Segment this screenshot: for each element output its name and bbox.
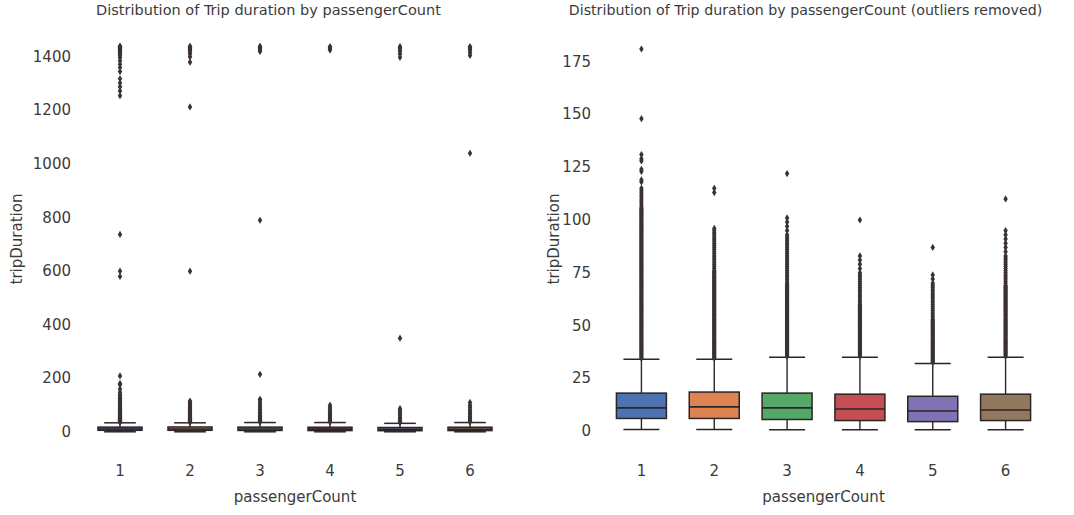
outlier-point [858,252,862,259]
outlier-point [398,335,402,342]
boxplot-box-5 [908,244,958,430]
boxplot-box-1 [616,45,666,429]
y-tick-label: 25 [572,369,591,387]
outlier-point [118,372,122,379]
boxplot-panel-right: Distribution of Trip duration by passeng… [537,0,1074,515]
chart-title-right: Distribution of Trip duration by passeng… [537,2,1074,18]
boxplot-box-4 [835,216,885,429]
outlier-point [1003,195,1007,202]
outlier-point [118,268,122,275]
y-axis-label: tripDuration [545,194,563,285]
y-tick-label: 800 [42,209,71,227]
x-tick-label: 1 [115,462,125,480]
y-axis-label: tripDuration [8,194,26,285]
x-axis-label: passengerCount [234,488,357,506]
x-tick-label: 2 [709,462,719,480]
x-tick-label: 2 [185,462,195,480]
y-tick-label: 1400 [33,48,71,66]
outlier-point [118,75,122,82]
outlier-point [785,170,789,177]
outlier-point [931,244,935,251]
x-tick-label: 6 [1001,462,1011,480]
boxplot-svg-right: 0255075100125150175tripDuration123456pas… [537,0,1074,515]
boxplot-box-3 [238,43,282,432]
x-tick-label: 4 [325,462,335,480]
outlier-point [188,103,192,110]
boxplot-box-6 [981,195,1031,430]
x-tick-label: 3 [782,462,792,480]
y-tick-label: 200 [42,369,71,387]
boxplot-box-6 [448,43,492,432]
chart-title-left: Distribution of Trip duration by passeng… [0,2,537,18]
y-tick-label: 1000 [33,155,71,173]
outlier-point [639,151,643,158]
y-tick-label: 400 [42,316,71,334]
x-tick-label: 4 [855,462,865,480]
outlier-point [785,214,789,221]
y-tick-label: 1200 [33,101,71,119]
y-tick-label: 125 [562,158,591,176]
figure-root: Distribution of Trip duration by passeng… [0,0,1074,515]
outlier-point [118,380,122,387]
boxplot-box-1 [98,43,142,432]
y-tick-label: 100 [562,211,591,229]
boxplot-svg-left: 0200400600800100012001400tripDuration123… [0,0,537,515]
x-tick-label: 1 [637,462,647,480]
boxplot-box-3 [762,170,812,430]
boxplot-box-2 [168,43,212,432]
outlier-point [639,45,643,52]
outlier-point [931,271,935,278]
x-axis-label: passengerCount [762,488,885,506]
x-tick-label: 5 [395,462,405,480]
y-tick-label: 600 [42,262,71,280]
x-tick-label: 3 [255,462,265,480]
y-tick-label: 150 [562,105,591,123]
boxplot-panel-left: Distribution of Trip duration by passeng… [0,0,537,515]
outlier-point [639,115,643,122]
outlier-point [258,217,262,224]
outlier-point [712,185,716,192]
x-tick-label: 5 [928,462,938,480]
x-tick-label: 6 [465,462,475,480]
outlier-point [1003,227,1007,234]
y-tick-label: 0 [581,422,591,440]
boxplot-box-4 [308,43,352,432]
y-tick-label: 175 [562,53,591,71]
y-tick-label: 75 [572,264,591,282]
outlier-point [468,150,472,157]
boxplot-box-5 [378,43,422,432]
outlier-point [118,231,122,238]
boxplot-box-2 [689,185,739,430]
outlier-point [858,216,862,223]
y-tick-label: 0 [61,423,71,441]
y-tick-label: 50 [572,317,591,335]
outlier-point [258,371,262,378]
outlier-point [188,268,192,275]
